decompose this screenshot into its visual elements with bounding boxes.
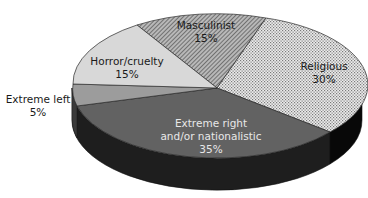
label-extreme-right-line2: and/or nationalistic xyxy=(160,130,261,142)
label-extreme-right-pct: 35% xyxy=(199,143,222,155)
label-horror-name: Horror/cruelty xyxy=(90,55,163,67)
label-extreme-left-pct: 5% xyxy=(30,106,47,118)
label-extreme-left-name: Extreme left xyxy=(6,93,71,105)
pie-chart: Masculinist 15% Religious 30% Horror/cru… xyxy=(0,0,368,198)
label-horror-pct: 15% xyxy=(115,68,138,80)
label-religious-name: Religious xyxy=(300,60,347,72)
label-extreme-right-line1: Extreme right xyxy=(175,117,247,129)
label-masculinist-pct: 15% xyxy=(194,32,217,44)
label-religious-pct: 30% xyxy=(312,73,335,85)
label-masculinist-name: Masculinist xyxy=(177,19,235,31)
